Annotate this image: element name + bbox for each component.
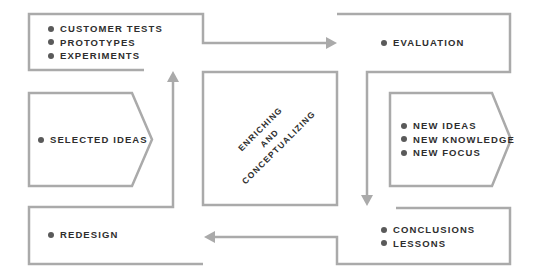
redesign-list: REDESIGN: [48, 228, 118, 242]
conclusions-list: CONCLUSIONS LESSONS: [381, 223, 475, 250]
bullet-icon: [381, 227, 387, 233]
list-item: CUSTOMER TESTS: [48, 22, 163, 36]
bullet-icon: [401, 136, 407, 142]
bullet-icon: [48, 53, 54, 59]
list-item: REDESIGN: [48, 228, 118, 242]
bullet-icon: [381, 240, 387, 246]
list-item: CONCLUSIONS: [381, 223, 475, 237]
bullet-icon: [48, 26, 54, 32]
selected-ideas-list: SELECTED IDEAS: [38, 133, 148, 147]
evaluation-list: EVALUATION: [381, 36, 464, 50]
list-item: PROTOTYPES: [48, 36, 163, 50]
list-item: LESSONS: [381, 237, 475, 251]
arrow-left-icon: [204, 231, 215, 243]
list-item: EVALUATION: [381, 36, 464, 50]
arrow-up-icon: [167, 71, 179, 82]
center-label: ENRICHING AND CONCEPTUALIZING: [203, 72, 337, 205]
new-ideas-list: NEW IDEAS NEW KNOWLEDGE NEW FOCUS: [401, 119, 515, 160]
list-item: NEW IDEAS: [401, 119, 515, 133]
arrow-down-icon: [361, 195, 373, 206]
bullet-icon: [381, 40, 387, 46]
bullet-icon: [401, 123, 407, 129]
list-item: NEW FOCUS: [401, 146, 515, 160]
list-item: EXPERIMENTS: [48, 49, 163, 63]
bullet-icon: [48, 232, 54, 238]
list-item: NEW KNOWLEDGE: [401, 133, 515, 147]
arrow-right-icon: [326, 37, 337, 49]
bullet-icon: [401, 150, 407, 156]
list-item: SELECTED IDEAS: [38, 133, 148, 147]
experiments-list: CUSTOMER TESTS PROTOTYPES EXPERIMENTS: [48, 22, 163, 63]
bullet-icon: [48, 39, 54, 45]
bullet-icon: [38, 137, 44, 143]
